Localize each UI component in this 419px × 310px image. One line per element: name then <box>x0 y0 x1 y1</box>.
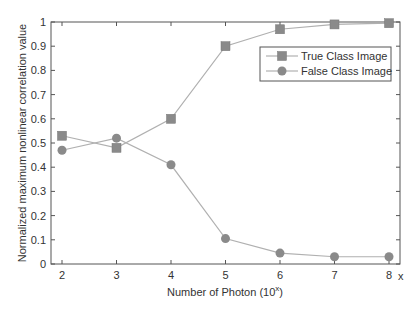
circle-marker-icon <box>58 146 67 155</box>
square-marker-icon <box>112 143 121 152</box>
square-marker-icon <box>276 25 285 34</box>
y-tick-label: 0 <box>40 258 46 270</box>
line-chart: 00.10.20.30.40.50.60.70.80.91 2345678 Tr… <box>0 0 419 310</box>
circle-marker-icon <box>112 134 121 143</box>
circle-marker-icon <box>167 160 176 169</box>
circle-marker-icon <box>330 252 339 261</box>
x-tick-label: 3 <box>113 269 119 281</box>
square-marker-icon <box>167 114 176 123</box>
y-axis-title: Normalized maximum nonlinear correlation… <box>16 24 28 262</box>
square-marker-icon <box>278 52 287 61</box>
x-tick-label: 2 <box>59 269 65 281</box>
circle-marker-icon <box>276 249 285 258</box>
square-marker-icon <box>330 20 339 29</box>
x-tick-label: 6 <box>277 269 283 281</box>
x-tick-label: 5 <box>222 269 228 281</box>
y-tick-label: 0.4 <box>31 161 46 173</box>
square-marker-icon <box>221 42 230 51</box>
y-tick-label: 0.5 <box>31 137 46 149</box>
series-true-class <box>58 19 394 153</box>
square-marker-icon <box>58 131 67 140</box>
circle-marker-icon <box>221 234 230 243</box>
series-false-class <box>58 134 394 262</box>
legend-label-false: False Class Image <box>301 65 392 77</box>
legend: True Class Image False Class Image <box>260 47 392 81</box>
x-tick-label: 7 <box>331 269 337 281</box>
circle-marker-icon <box>278 67 287 76</box>
y-tick-label: 0.6 <box>31 113 46 125</box>
y-tick-label: 0.8 <box>31 64 46 76</box>
y-tick-label: 0.1 <box>31 234 46 246</box>
y-tick-label: 1 <box>40 16 46 28</box>
y-tick-label: 0.3 <box>31 185 46 197</box>
x-axis-end-label: x <box>398 270 404 282</box>
circle-marker-icon <box>385 252 394 261</box>
square-marker-icon <box>385 19 394 28</box>
legend-label-true: True Class Image <box>301 50 387 62</box>
x-tick-label: 4 <box>168 269 174 281</box>
y-tick-label: 0.7 <box>31 89 46 101</box>
y-tick-label: 0.2 <box>31 210 46 222</box>
x-tick-label: 8 <box>386 269 392 281</box>
x-axis-title: Number of Photon (10x) <box>167 284 283 298</box>
y-tick-label: 0.9 <box>31 40 46 52</box>
